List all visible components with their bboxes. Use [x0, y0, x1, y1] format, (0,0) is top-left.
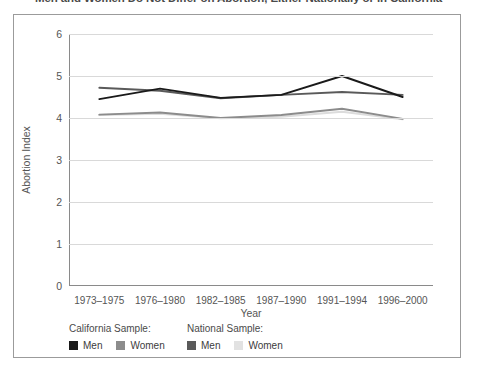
legend-item-california-women[interactable]: Women	[116, 340, 164, 351]
y-tick-label-0: 0	[56, 280, 62, 292]
legend-group-california: California Sample: Men Women	[69, 323, 179, 351]
y-tick-label-4: 4	[56, 112, 62, 124]
gridline-y-2	[69, 202, 433, 203]
x-tick-label-1: 1976–1980	[135, 295, 185, 306]
legend-swatch-national-men	[187, 341, 196, 350]
x-axis-label: Year	[69, 307, 433, 319]
legend-label-california-women: Women	[130, 340, 164, 351]
legend-swatch-california-men	[69, 341, 78, 350]
gridline-y-1	[69, 244, 433, 245]
x-tick-label-2: 1982–1985	[196, 295, 246, 306]
legend-label-california-men: Men	[83, 340, 102, 351]
gridline-y-6	[69, 34, 433, 35]
gridline-y-3	[69, 160, 433, 161]
y-tick-label-1: 1	[56, 238, 62, 250]
x-tick-label-4: 1991–1994	[317, 295, 367, 306]
y-tick-label-5: 5	[56, 70, 62, 82]
chart-title-clipped: Men and Women Do Not Differ on Abortion,…	[0, 0, 477, 9]
legend-swatch-national-women	[234, 341, 243, 350]
gridline-y-5	[69, 76, 433, 77]
y-axis-label: Abortion Index	[20, 126, 32, 194]
legend-group-national: National Sample: Men Women	[187, 323, 297, 351]
plot-area: 01234561973–19751976–19801982–19851987–1…	[69, 34, 433, 286]
series-line-california-sample-men	[99, 76, 402, 99]
legend-label-national-women: Women	[248, 340, 282, 351]
legend-items-national: Men Women	[187, 340, 297, 351]
y-tick-label-2: 2	[56, 196, 62, 208]
legend-items-california: Men Women	[69, 340, 179, 351]
x-tick-label-3: 1987–1990	[256, 295, 306, 306]
legend-item-national-men[interactable]: Men	[187, 340, 220, 351]
chart-title: Men and Women Do Not Differ on Abortion,…	[0, 0, 477, 4]
legend-heading-national: National Sample:	[187, 323, 297, 334]
gridline-y-4	[69, 118, 433, 119]
x-tick-label-0: 1973–1975	[74, 295, 124, 306]
chart-frame: Abortion Index 01234561973–19751976–1980…	[13, 14, 461, 358]
legend-label-national-men: Men	[201, 340, 220, 351]
legend-swatch-california-women	[116, 341, 125, 350]
legend-item-california-men[interactable]: Men	[69, 340, 102, 351]
legend-heading-california: California Sample:	[69, 323, 179, 334]
y-tick-label-3: 3	[56, 154, 62, 166]
legend-item-national-women[interactable]: Women	[234, 340, 282, 351]
chart-page: Men and Women Do Not Differ on Abortion,…	[0, 0, 477, 372]
x-tick-label-5: 1996–2000	[378, 295, 428, 306]
plot-wrapper: Abortion Index 01234561973–19751976–1980…	[14, 15, 462, 359]
y-tick-label-6: 6	[56, 28, 62, 40]
